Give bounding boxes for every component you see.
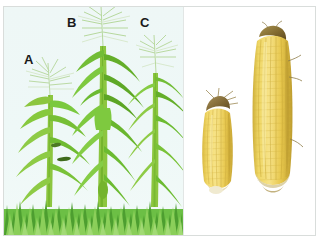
maize-cob-large	[242, 21, 304, 201]
plant-label-a: A	[24, 53, 34, 66]
maize-field-panel: A B C	[4, 7, 183, 235]
plant-label-b: B	[67, 16, 77, 29]
figure-root: A B C	[0, 0, 320, 243]
maize-cob-panel	[184, 7, 315, 235]
grass-strip	[4, 195, 183, 235]
maize-cob-small	[192, 85, 242, 197]
maize-plant-c	[122, 29, 183, 209]
plant-label-c: C	[140, 16, 150, 29]
